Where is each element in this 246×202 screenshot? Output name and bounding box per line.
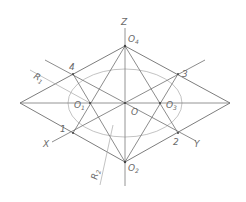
label-3: 3 xyxy=(182,69,188,79)
label-r1: R1 xyxy=(32,71,46,85)
label-y: Y xyxy=(194,139,201,149)
point-o xyxy=(124,102,126,104)
label-2: 2 xyxy=(173,137,179,147)
label-o4: O4 xyxy=(128,34,139,45)
label-o: O xyxy=(131,107,138,117)
point-o4 xyxy=(124,45,126,47)
o4-to-p2 xyxy=(125,46,178,133)
label-o2: O2 xyxy=(128,163,139,174)
o2-to-p3 xyxy=(125,74,178,162)
isometric-ellipse-diagram: Z X Y O O4 O2 O1 O3 1 2 3 4 R1 R2 xyxy=(0,0,246,202)
label-z: Z xyxy=(120,17,128,27)
point-3 xyxy=(177,73,179,75)
point-4 xyxy=(72,73,74,75)
point-o2 xyxy=(124,161,126,163)
label-4: 4 xyxy=(69,62,75,72)
o2-to-p4 xyxy=(73,74,125,162)
label-o1: O1 xyxy=(74,100,85,111)
label-1: 1 xyxy=(60,124,66,134)
label-r2: R2 xyxy=(89,168,102,180)
point-1 xyxy=(72,132,74,134)
label-x: X xyxy=(42,139,50,149)
point-o1 xyxy=(89,102,91,104)
point-o3 xyxy=(159,102,161,104)
label-o3: O3 xyxy=(166,100,177,111)
point-2 xyxy=(177,132,179,134)
o4-to-p1 xyxy=(73,46,125,133)
